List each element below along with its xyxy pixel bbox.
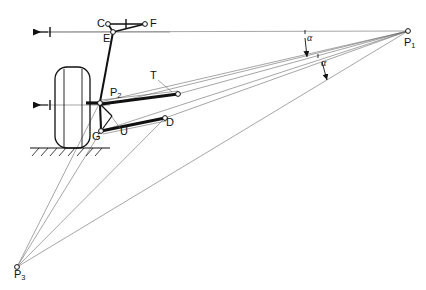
label-point-f: F [150,18,157,29]
joint-c [106,22,111,27]
label-point-g: G [92,131,101,142]
label-point-p2: P2 [110,87,122,98]
steering-knuckle-upright [100,32,113,131]
label-p2-sub: 2 [117,91,121,100]
joint-p2 [98,101,103,106]
joint-f [143,22,148,27]
label-point-c: C [97,18,105,29]
label-point-e: E [103,33,110,44]
joint-p1 [406,29,411,34]
joint-e [111,30,116,35]
label-point-u: U [120,126,128,137]
construction-lines-to-p1 [33,31,408,131]
label-angle-alpha-lower: α [321,58,326,68]
ground-line [30,148,110,156]
label-p1-sub: 1 [411,41,415,50]
label-angle-alpha-upper: α [307,33,312,43]
label-point-t: T [150,70,157,81]
label-point-d: D [166,117,174,128]
joint-t [176,92,181,97]
diagram-canvas: C F E T D U G P2 P1 P3 α α [0,0,426,290]
label-point-p1: P1 [404,37,416,48]
wheel-tire [55,67,90,148]
label-p3-sub: 3 [21,273,25,282]
joint-markers [15,22,411,270]
lower-control-arm-g-d [101,118,165,131]
kinematic-diagram-svg [0,0,426,290]
label-point-p3: P3 [14,269,26,280]
